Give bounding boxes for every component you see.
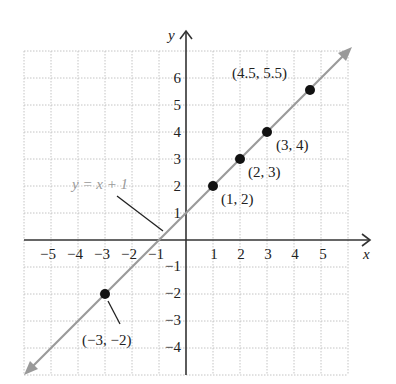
svg-text:3: 3 (264, 246, 272, 262)
svg-text:4: 4 (174, 124, 182, 140)
point-3-4 (262, 127, 272, 137)
point-1-2 (208, 181, 218, 191)
point-label-2-3: (2, 3) (248, 164, 281, 181)
svg-text:−5: −5 (40, 246, 56, 262)
svg-text:−3: −3 (165, 312, 181, 328)
point-2-3 (235, 154, 245, 164)
svg-text:−3: −3 (94, 246, 110, 262)
coordinate-plane: x y −5 −4 −3 −2 −1 1 2 3 4 5 6 5 4 3 2 1… (0, 0, 396, 384)
point-neg3-neg2 (100, 289, 110, 299)
point-4.5-5.5 (305, 85, 315, 95)
x-tick-labels: −5 −4 −3 −2 −1 1 2 3 4 5 (40, 246, 327, 262)
point-label-4.5-5.5: (4.5, 5.5) (232, 65, 287, 82)
svg-text:1: 1 (210, 246, 218, 262)
svg-text:3: 3 (174, 151, 182, 167)
svg-text:−1: −1 (165, 258, 181, 274)
svg-text:6: 6 (174, 70, 182, 86)
svg-text:4: 4 (291, 246, 299, 262)
y-tick-labels: 6 5 4 3 2 1 −1 −2 −3 −4 (165, 70, 181, 355)
svg-text:−4: −4 (165, 339, 181, 355)
equation-label: y = x + 1 (70, 176, 128, 192)
svg-text:5: 5 (319, 246, 327, 262)
svg-text:−4: −4 (67, 246, 83, 262)
svg-text:−2: −2 (165, 285, 181, 301)
point-label-neg3-neg2: (−3, −2) (82, 332, 131, 349)
y-axis-label: y (166, 27, 175, 43)
svg-text:−2: −2 (121, 246, 137, 262)
line-y-equals-x-plus-1 (24, 47, 352, 375)
point-label-1-2: (1, 2) (221, 191, 254, 208)
x-axis-label: x (362, 246, 370, 262)
svg-text:2: 2 (174, 178, 182, 194)
point-label-3-4: (3, 4) (276, 137, 309, 154)
svg-text:2: 2 (237, 246, 245, 262)
svg-text:5: 5 (174, 97, 182, 113)
